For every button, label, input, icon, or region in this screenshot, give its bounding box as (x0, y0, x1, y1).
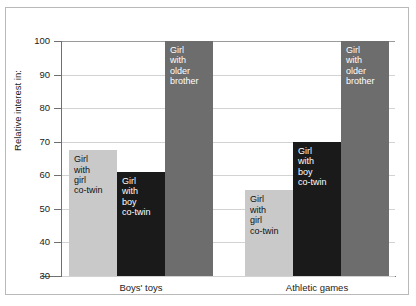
tick-label-90: 90 (20, 70, 50, 80)
bar-label: Girl with boy co-twin (122, 176, 162, 218)
bar-label: Girl with girl co-twin (74, 154, 114, 196)
bar-label: Girl with older brother (170, 45, 210, 87)
tick-mark-80 (54, 108, 61, 109)
bar-athletic-games-girl-with-boy-co-twin: Girl with boy co-twin (293, 142, 341, 276)
bar-label: Girl with girl co-twin (250, 194, 290, 236)
tick-mark-60 (54, 175, 61, 176)
tick-label-text: 90 (24, 70, 50, 80)
tick-label-text: 100 (24, 36, 50, 46)
tick-mark-30 (54, 276, 61, 277)
tick-label-text: 60 (24, 170, 50, 180)
tick-label-80: 80 (20, 103, 50, 113)
tick-label-40: 40 (20, 237, 50, 247)
bar-athletic-games-girl-with-girl-co-twin: Girl with girl co-twin (245, 190, 293, 276)
bar-boys-toys-girl-with-older-brother: Girl with older brother (165, 41, 213, 276)
bar-label: Girl with boy co-twin (298, 146, 338, 188)
group-label-boys-toys: Boys' toys (71, 282, 211, 293)
plot-area: Girl with girl co-twinGirl with boy co-t… (62, 41, 395, 276)
tick-label-30: 30 (20, 271, 50, 281)
tick-label-text: 70 (24, 137, 50, 147)
tick-label-text: 40 (24, 237, 50, 247)
tick-label-60: 60 (20, 170, 50, 180)
tick-mark-100 (54, 41, 61, 42)
group-label-athletic-games: Athletic games (247, 282, 387, 293)
figure-container: Relative interest in: 10090807060504030 … (0, 0, 416, 306)
bar-boys-toys-girl-with-boy-co-twin: Girl with boy co-twin (117, 172, 165, 276)
tick-mark-70 (54, 142, 61, 143)
tick-label-text: 80 (24, 103, 50, 113)
tick-mark-50 (54, 209, 61, 210)
tick-label-100: 100 (20, 36, 50, 46)
bar-label: Girl with older brother (346, 45, 386, 87)
tick-label-text: 50 (24, 204, 50, 214)
gridline-30 (62, 276, 395, 277)
tick-mark-40 (54, 242, 61, 243)
bar-boys-toys-girl-with-girl-co-twin: Girl with girl co-twin (69, 150, 117, 276)
tick-label-70: 70 (20, 137, 50, 147)
tick-label-text: 30 (24, 271, 50, 281)
tick-mark-90 (54, 75, 61, 76)
tick-label-50: 50 (20, 204, 50, 214)
bar-athletic-games-girl-with-older-brother: Girl with older brother (341, 41, 389, 276)
